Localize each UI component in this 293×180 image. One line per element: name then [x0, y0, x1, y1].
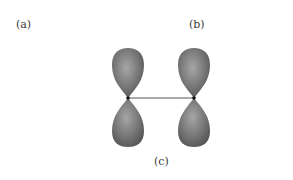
left-lower-lobe: [112, 98, 144, 147]
right-upper-lobe: [178, 48, 210, 98]
left-upper-lobe: [112, 48, 144, 98]
right-lower-lobe: [178, 98, 210, 147]
p-orbital-diagram: [0, 0, 293, 180]
left-nucleus: [126, 96, 130, 100]
right-nucleus: [192, 96, 196, 100]
